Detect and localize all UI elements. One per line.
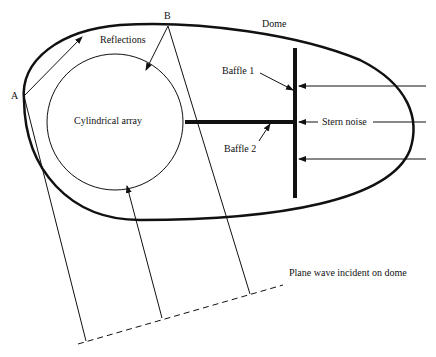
baffle-2-label: Baffle 2 (224, 144, 256, 154)
plane-wave-front (78, 285, 283, 344)
reflection-ray-b (146, 26, 168, 70)
point-a-label: A (11, 91, 18, 101)
cylindrical-array-label: Cylindrical array (74, 116, 142, 126)
baffle-2-leader (259, 124, 270, 141)
reflections-label: Reflections (100, 35, 146, 45)
baffle-1-leader (260, 73, 293, 90)
sonar-dome-diagram (0, 0, 436, 357)
stern-noise-label: Stern noise (322, 117, 367, 127)
incident-ray-1 (24, 96, 86, 341)
plane-wave-label: Plane wave incident on dome (289, 268, 407, 278)
incident-ray-2 (127, 186, 162, 318)
point-b-label: B (164, 11, 171, 21)
baffle-1-label: Baffle 1 (222, 66, 254, 76)
dome-label: Dome (262, 19, 286, 29)
